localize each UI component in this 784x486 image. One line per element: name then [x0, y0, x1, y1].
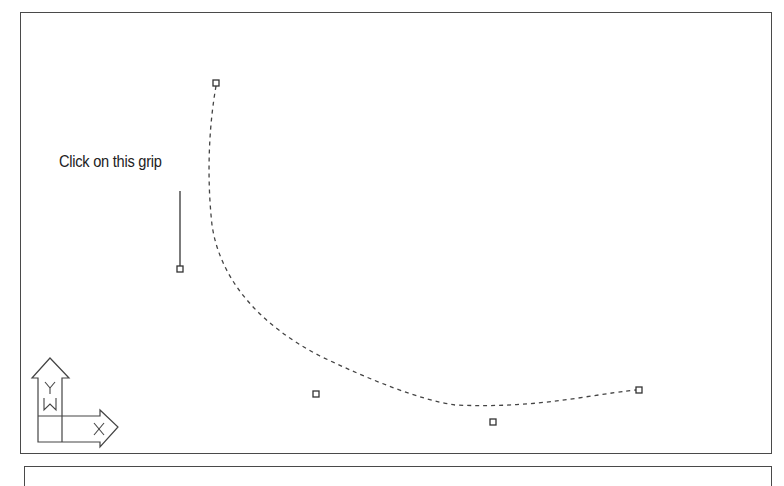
spline-start-grip[interactable] — [213, 80, 219, 86]
control-point-grip-2[interactable] — [313, 391, 319, 397]
ucs-w-label-icon — [44, 398, 56, 410]
spline-end-grip[interactable] — [636, 387, 642, 393]
ucs-icon — [32, 358, 118, 447]
control-point-grip-3[interactable] — [490, 419, 496, 425]
dashed-spline[interactable] — [209, 86, 636, 406]
callout-label: Click on this grip — [59, 152, 162, 172]
ucs-y-label-icon — [45, 382, 55, 394]
ucs-x-label-icon — [94, 423, 104, 435]
control-point-grip-1[interactable] — [177, 266, 183, 272]
